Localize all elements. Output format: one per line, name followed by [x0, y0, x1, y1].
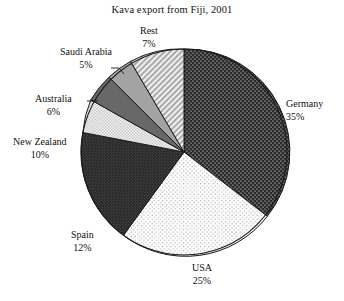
slice-label-rest-name: Rest	[140, 25, 158, 38]
slice-label-rest: Rest 7%	[140, 25, 158, 50]
slice-label-spain-name: Spain	[71, 229, 94, 242]
slice-label-saudi-arabia: Saudi Arabia 5%	[60, 46, 112, 71]
slice-label-australia-name: Australia	[35, 93, 72, 106]
slice-label-new-zealand-name: New Zealand	[13, 136, 67, 149]
slice-label-australia: Australia 6%	[35, 93, 72, 118]
slice-label-usa-name: USA	[192, 262, 212, 275]
slice-label-germany-name: Germany	[286, 98, 323, 111]
slice-label-new-zealand: New Zealand 10%	[13, 136, 67, 161]
pie-slices-group	[81, 49, 290, 256]
slice-label-spain: Spain 12%	[71, 229, 94, 254]
slice-label-australia-pct: 6%	[35, 106, 72, 119]
slice-label-usa-pct: 25%	[192, 275, 212, 288]
slice-label-new-zealand-pct: 10%	[13, 149, 67, 162]
slice-label-spain-pct: 12%	[71, 242, 94, 255]
slice-label-usa: USA 25%	[192, 262, 212, 287]
slice-label-germany-pct: 35%	[286, 111, 323, 124]
slice-label-rest-pct: 7%	[140, 38, 158, 51]
slice-label-germany: Germany 35%	[286, 98, 323, 123]
slice-label-saudi-arabia-name: Saudi Arabia	[60, 46, 112, 59]
pie-chart-figure: Kava export from Fiji, 2001	[0, 0, 344, 301]
slice-label-saudi-arabia-pct: 5%	[60, 59, 112, 72]
